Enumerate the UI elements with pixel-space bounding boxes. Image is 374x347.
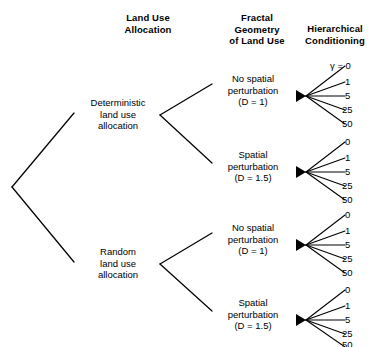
leaf-group-1-value-0: γ = 0: [330, 61, 351, 71]
leaf-group-1-value-1: 1: [345, 77, 350, 87]
leaf-group-3-value-2: 5: [345, 240, 350, 250]
node-line-2: perturbation: [214, 309, 292, 321]
leaf-group-1-value-3: 25: [342, 105, 353, 115]
edge-fan-1-1: [306, 82, 345, 96]
arrowhead-1: [296, 90, 306, 102]
node-line-2: perturbation: [214, 85, 292, 97]
node-det-perturbation: Spatial perturbation (D = 1.5): [214, 149, 292, 184]
edge-fan-4-1: [306, 306, 345, 320]
node-line-3: allocation: [78, 120, 158, 132]
edge-root-to-random: [12, 187, 74, 262]
leaf-group-3-value-3: 25: [342, 254, 353, 264]
arrowhead-4: [296, 314, 306, 326]
edge-deterministic-to-no-perturb: [160, 84, 212, 115]
arrowhead-2: [296, 166, 306, 178]
edge-fan-4-4: [306, 320, 345, 347]
column-header-fractal-geometry: Fractal Geometry of Land Use: [213, 12, 301, 47]
edge-fan-3-0: [306, 215, 345, 245]
node-line-1: Deterministic: [78, 97, 158, 109]
edge-fan-3-4: [306, 245, 345, 273]
node-line-2: perturbation: [214, 234, 292, 246]
node-random-allocation: Random land use allocation: [78, 246, 158, 281]
column-header-line-1: Land Use: [98, 12, 198, 24]
edge-random-to-perturb: [160, 264, 212, 311]
node-det-no-perturbation: No spatial perturbation (D = 1): [214, 73, 292, 108]
edge-fan-4-3: [306, 320, 345, 334]
diagram-edges: [0, 0, 374, 347]
fan-arrowheads: [296, 90, 306, 326]
leaf-group-4-value-4: 50: [342, 340, 353, 347]
node-rand-no-perturbation: No spatial perturbation (D = 1): [214, 222, 292, 257]
node-line-3: allocation: [78, 269, 158, 281]
leaf-group-2-value-0: 0: [345, 137, 350, 147]
edge-deterministic-to-perturb: [160, 115, 212, 163]
column-header-line-1: Hierarchical: [295, 23, 374, 35]
leaf-group-1-value-4: 50: [342, 119, 353, 129]
leaf-group-3-value-0: 0: [345, 210, 350, 220]
leaf-group-4-value-2: 5: [345, 315, 350, 325]
leaf-group-2-value-2: 5: [345, 167, 350, 177]
node-rand-perturbation: Spatial perturbation (D = 1.5): [214, 297, 292, 332]
leaf-group-2-value-3: 25: [342, 181, 353, 191]
node-line-1: Spatial: [214, 297, 292, 309]
column-header-line-3: of Land Use: [213, 35, 301, 47]
leaf-group-1-value-2: 5: [345, 91, 350, 101]
edge-fan-2-4: [306, 172, 345, 200]
edge-fan-1-3: [306, 96, 345, 110]
leaf-group-3-value-4: 50: [342, 268, 353, 278]
tree-diagram: Land Use Allocation Fractal Geometry of …: [0, 0, 374, 347]
leaf-group-3-value-1: 1: [345, 226, 350, 236]
edge-fan-3-1: [306, 231, 345, 245]
leaf-group-4-value-3: 25: [342, 329, 353, 339]
leaf-group-4-value-1: 1: [345, 301, 350, 311]
column-header-land-use-allocation: Land Use Allocation: [98, 12, 198, 35]
column-header-line-2: Geometry: [213, 24, 301, 36]
edge-fan-2-1: [306, 158, 345, 172]
node-line-3: (D = 1): [214, 245, 292, 257]
node-line-3: (D = 1.5): [214, 320, 292, 332]
node-line-1: No spatial: [214, 222, 292, 234]
node-deterministic-allocation: Deterministic land use allocation: [78, 97, 158, 132]
leaf-group-2-value-1: 1: [345, 153, 350, 163]
edge-fan-2-3: [306, 172, 345, 186]
node-line-1: No spatial: [214, 73, 292, 85]
edge-fan-4-0: [306, 290, 345, 320]
node-line-1: Spatial: [214, 149, 292, 161]
leaf-group-4-value-0: 0: [345, 285, 350, 295]
leaf-group-2-value-4: 50: [342, 195, 353, 205]
node-line-3: (D = 1.5): [214, 172, 292, 184]
edge-random-to-no-perturb: [160, 233, 212, 264]
edge-fan-1-4: [306, 96, 345, 124]
node-line-2: land use: [78, 109, 158, 121]
column-header-line-2: Allocation: [98, 24, 198, 36]
edge-fan-2-0: [306, 142, 345, 172]
node-line-1: Random: [78, 246, 158, 258]
edge-root-to-deterministic: [12, 113, 74, 187]
arrowhead-3: [296, 239, 306, 251]
edge-fan-3-3: [306, 245, 345, 259]
node-line-2: perturbation: [214, 161, 292, 173]
node-line-2: land use: [78, 258, 158, 270]
column-header-line-2: Conditioning: [295, 35, 374, 47]
column-header-line-1: Fractal: [213, 12, 301, 24]
node-line-3: (D = 1): [214, 96, 292, 108]
column-header-hierarchical-conditioning: Hierarchical Conditioning: [295, 23, 374, 46]
